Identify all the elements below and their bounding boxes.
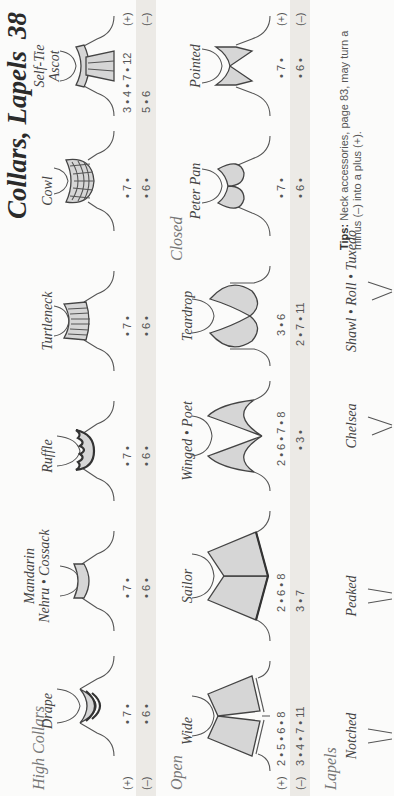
wide-plus: 2 • 5 • 6 • 8: [275, 712, 287, 766]
minus-label-row1: (–): [140, 777, 152, 790]
sailor-minus: 3 • 7: [294, 590, 306, 612]
label-mandarin-line2: Nehru • Cossack: [37, 521, 52, 631]
winged-poet-plus: 2 • 6 • 7 • 8: [275, 412, 287, 466]
ascot-minus: 5 • 6: [140, 91, 152, 113]
peter-pan-collar-illustration: [200, 131, 272, 241]
plus-label-row2-right: (+): [275, 12, 287, 26]
page-number: 38: [2, 12, 32, 39]
label-chelsea: Chelsea: [344, 386, 359, 466]
section-title-closed: Closed: [168, 217, 186, 261]
drape-plus: • 7 •: [121, 704, 133, 724]
tips-label: Tips:: [338, 224, 350, 250]
sailor-plus: 2 • 6 • 8: [275, 574, 287, 612]
cowl-minus: • 6 •: [140, 178, 152, 198]
label-notched: Notched: [344, 696, 359, 776]
turtleneck-plus: • 7 •: [121, 316, 133, 336]
section-title-lapels: Lapels: [322, 747, 340, 790]
teardrop-plus: 3 • 6: [275, 314, 287, 336]
peter-pan-plus: • 7 •: [275, 178, 287, 198]
pointed-collar-illustration: [200, 11, 272, 121]
wide-collar-illustration: [190, 656, 272, 776]
winged-poet-collar-illustration: [190, 376, 272, 496]
notched-lapel-illustration: [362, 721, 394, 751]
pointed-minus: • 6 •: [294, 58, 306, 78]
mandarin-minus: • 6 •: [140, 578, 152, 598]
label-peaked: Peaked: [344, 556, 359, 636]
label-self-tie: Self-Tie: [32, 26, 47, 106]
peaked-lapel-illustration: [362, 581, 394, 611]
minus-label-row2: (–): [294, 777, 306, 790]
rotated-page: Collars, Lapels38 High Collars (+) (–) (…: [0, 0, 394, 796]
ruffle-minus: • 6 •: [140, 446, 152, 466]
ascot-illustration: [52, 11, 117, 121]
title-text: Collars, Lapels: [2, 51, 32, 219]
chelsea-lapel-illustration: [362, 411, 394, 441]
winged-poet-minus: • 3 •: [294, 430, 306, 450]
ruffle-collar-illustration: [52, 396, 117, 506]
pointed-plus: • 7 •: [275, 58, 287, 78]
shawl-lapel-illustration: [362, 276, 394, 306]
label-mandarin-line1: Mandarin: [22, 521, 37, 631]
minus-band-row1: [136, 0, 156, 796]
drape-minus: • 6 •: [140, 704, 152, 724]
cowl-collar-illustration: [52, 126, 117, 236]
teardrop-minus: 2 • 7 • 11: [294, 302, 306, 346]
plus-label-row1-right: (+): [121, 12, 133, 26]
ruffle-plus: • 7 •: [121, 446, 133, 466]
wide-minus: 3 • 4 • 7 • 11: [294, 706, 306, 766]
page-title: Collars, Lapels38: [2, 12, 33, 219]
teardrop-collar-illustration: [190, 261, 272, 371]
tips-note: Tips: Neck accessories, page 83, may tur…: [338, 20, 364, 250]
minus-band-row2: [290, 0, 310, 796]
tips-text: Neck accessories, page 83, may turn a mi…: [338, 31, 363, 250]
minus-label-row1-right: (–): [140, 13, 152, 26]
turtleneck-collar-illustration: [52, 266, 117, 376]
minus-label-row2-right: (–): [294, 13, 306, 26]
sailor-collar-illustration: [190, 506, 272, 646]
mandarin-plus: • 7 •: [121, 578, 133, 598]
peter-pan-minus: • 6 •: [294, 178, 306, 198]
drape-collar-illustration: [52, 651, 117, 761]
ascot-plus: 3 • 4 • 7 • 12: [121, 53, 133, 113]
mandarin-collar-illustration: [52, 526, 117, 636]
cowl-plus: • 7 •: [121, 178, 133, 198]
label-mandarin: Mandarin Nehru • Cossack: [22, 521, 52, 631]
plus-label-row1: (+): [121, 776, 133, 790]
turtleneck-minus: • 6 •: [140, 316, 152, 336]
plus-label-row2: (+): [275, 776, 287, 790]
